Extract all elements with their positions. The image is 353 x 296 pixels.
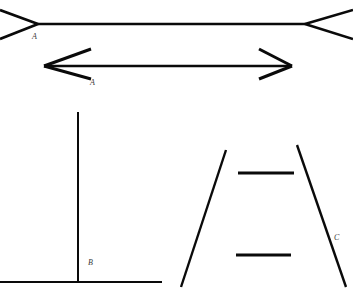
- ponzo-right-diagonal: [297, 145, 346, 287]
- muller-lyer-outward-group: A: [0, 10, 353, 41]
- label-b: B: [88, 258, 93, 267]
- muller-lyer-outward-fin-bottom-right: [305, 24, 353, 39]
- muller-lyer-outward-fin-top-right: [305, 10, 353, 24]
- label-c: C: [334, 233, 340, 242]
- ponzo-group: C: [181, 145, 346, 287]
- ponzo-left-diagonal: [181, 150, 226, 287]
- muller-lyer-inward-group: A: [44, 49, 292, 87]
- vertical-horizontal-group: B: [0, 112, 162, 282]
- label-a-bottom: A: [89, 78, 95, 87]
- muller-lyer-inward-arrowhead-left-upper: [44, 49, 91, 66]
- muller-lyer-outward-fin-top-left: [0, 10, 38, 24]
- muller-lyer-inward-arrowhead-right-upper: [259, 49, 292, 66]
- illusion-drawing: A A B C: [0, 0, 353, 296]
- muller-lyer-inward-arrowhead-right-lower: [259, 66, 292, 79]
- muller-lyer-inward-arrowhead-left-lower: [44, 66, 91, 79]
- label-a-top: A: [31, 32, 37, 41]
- illusion-figure-canvas: A A B C: [0, 0, 353, 296]
